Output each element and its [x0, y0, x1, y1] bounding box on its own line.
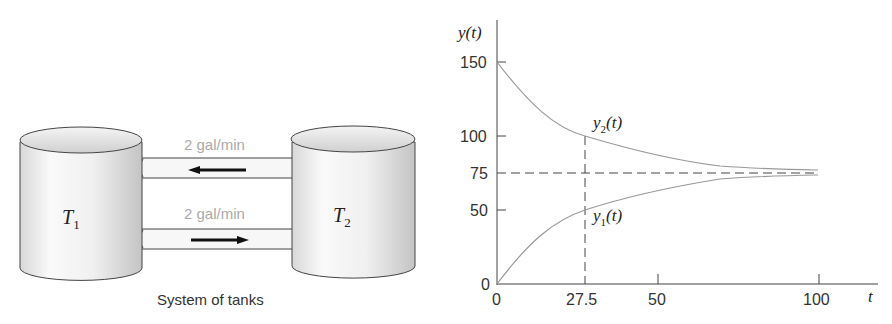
curve-y1	[497, 175, 818, 284]
tank-t2: T2	[291, 126, 415, 278]
x-tick-27-5: 27.5	[566, 291, 597, 308]
y-tick-0: 0	[481, 276, 490, 293]
diagram-caption: System of tanks	[157, 291, 264, 308]
y-tick-150: 150	[460, 54, 487, 71]
flow-label-top: 2 gal/min	[184, 136, 245, 153]
flow-label-bottom: 2 gal/min	[184, 205, 245, 222]
chart: 150 100 75 50 0 0 27.5 50 100 y(t) t y2(…	[456, 20, 878, 308]
x-tick-0: 0	[492, 291, 501, 308]
x-ticks	[658, 274, 819, 284]
y-tick-50: 50	[470, 202, 488, 219]
curve-y2	[497, 62, 818, 170]
figure: T1 T2 2 gal/min 2 gal/min System of tank…	[0, 0, 892, 324]
y-axis-label: y(t)	[456, 23, 482, 42]
y2-label: y2(t)	[591, 113, 622, 135]
tank-t1: T1	[20, 127, 142, 280]
tank-diagram: T1 T2 2 gal/min 2 gal/min System of tank…	[20, 126, 415, 308]
y-tick-100: 100	[460, 128, 487, 145]
y-ticks	[497, 62, 506, 210]
x-tick-50: 50	[648, 291, 666, 308]
pipe-bottom	[138, 229, 294, 249]
pipe-top	[138, 158, 294, 178]
x-tick-100: 100	[803, 291, 830, 308]
y-tick-75: 75	[470, 165, 488, 182]
y1-label: y1(t)	[591, 206, 622, 228]
x-axis-label: t	[868, 287, 874, 306]
